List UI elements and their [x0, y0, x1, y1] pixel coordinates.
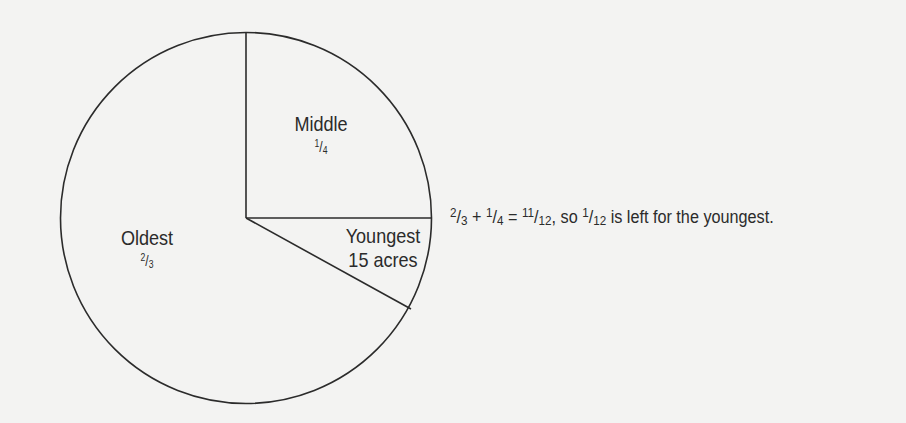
slice-detail-youngest: 15 acres: [337, 248, 428, 272]
fraction-denominator: 4: [323, 145, 328, 156]
fraction-numerator: 1: [314, 138, 319, 149]
note-connector: , so: [552, 207, 583, 227]
slice-name-youngest: Youngest: [337, 224, 428, 248]
slice-fraction-middle: 1/4: [282, 138, 359, 156]
calculation-note: 2/3 + 1/4 = 11/12, so 1/12 is left for t…: [450, 206, 774, 228]
fraction-numerator: 1: [582, 205, 588, 220]
slice-name-oldest: Oldest: [108, 226, 185, 250]
fraction-denominator: 3: [461, 213, 467, 228]
plus-sign: +: [468, 207, 486, 227]
equals-sign: =: [503, 207, 521, 227]
slice-label-middle: Middle 1/4: [282, 112, 359, 156]
fraction-numerator: 2: [450, 205, 456, 220]
note-conclusion: is left for the youngest.: [606, 207, 773, 227]
slice-name-middle: Middle: [282, 112, 359, 136]
fraction-denominator: 4: [497, 213, 503, 228]
fraction-denominator: 3: [149, 259, 154, 270]
fraction-numerator: 2: [140, 252, 145, 263]
slice-fraction-oldest: 2/3: [108, 252, 185, 270]
fraction-numerator: 1: [486, 205, 492, 220]
fraction-numerator: 11: [522, 205, 534, 220]
slice-label-youngest: Youngest 15 acres: [337, 224, 428, 272]
fraction-denominator: 12: [593, 213, 606, 228]
slice-label-oldest: Oldest 2/3: [108, 226, 185, 270]
fraction-denominator: 12: [539, 213, 552, 228]
